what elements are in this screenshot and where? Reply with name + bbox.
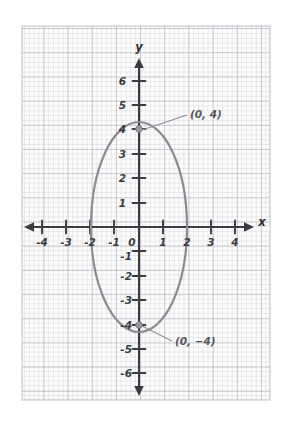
x-tick-label-1: 1 bbox=[159, 236, 166, 248]
y-tick-label-4: 4 bbox=[118, 123, 126, 135]
x-tick-label--3: -3 bbox=[60, 236, 72, 248]
coordinate-plot: -4 -3 -2 -1 0 1 2 3 4 6 5 4 3 2 1 -1 -2 … bbox=[0, 0, 291, 425]
x-axis-left-arrow-icon bbox=[24, 222, 34, 232]
y-tick-label--4: -4 bbox=[120, 319, 132, 331]
x-axis-label: x bbox=[257, 215, 266, 229]
x-tick-label-2: 2 bbox=[183, 236, 190, 248]
x-tick-label-4: 4 bbox=[230, 236, 238, 248]
y-axis-down-arrow-icon bbox=[134, 386, 144, 396]
annotation-bottom-vertex: (0, −4) bbox=[175, 335, 216, 347]
x-axis-right-arrow-icon bbox=[244, 222, 254, 232]
point-bottom-vertex[interactable] bbox=[136, 322, 143, 329]
y-tick-label--1: -1 bbox=[120, 250, 132, 262]
y-tick-label-6: 6 bbox=[119, 75, 126, 87]
x-tick-label--2: -2 bbox=[84, 236, 96, 248]
point-top-vertex[interactable] bbox=[136, 126, 143, 133]
top-annotation-leader-line bbox=[142, 115, 187, 130]
x-tick-label--1: -1 bbox=[108, 236, 120, 248]
y-tick-label--3: -3 bbox=[120, 294, 132, 306]
bottom-annotation-leader-line bbox=[142, 326, 172, 341]
y-tick-label-1: 1 bbox=[119, 197, 126, 209]
y-axis-up-arrow-icon bbox=[134, 58, 144, 68]
annotation-top-vertex: (0, 4) bbox=[190, 108, 222, 120]
y-tick-label--6: -6 bbox=[120, 367, 132, 379]
y-axis-label: y bbox=[135, 40, 143, 54]
x-tick-label-3: 3 bbox=[207, 236, 214, 248]
y-tick-label-3: 3 bbox=[119, 148, 126, 160]
y-tick-label--5: -5 bbox=[120, 343, 132, 355]
graph-page: -4 -3 -2 -1 0 1 2 3 4 6 5 4 3 2 1 -1 -2 … bbox=[0, 0, 291, 425]
y-tick-label-2: 2 bbox=[119, 172, 126, 184]
origin-label: 0 bbox=[128, 236, 135, 248]
y-tick-label--2: -2 bbox=[120, 270, 132, 282]
y-tick-label-5: 5 bbox=[119, 99, 126, 111]
x-tick-label--4: -4 bbox=[36, 236, 48, 248]
